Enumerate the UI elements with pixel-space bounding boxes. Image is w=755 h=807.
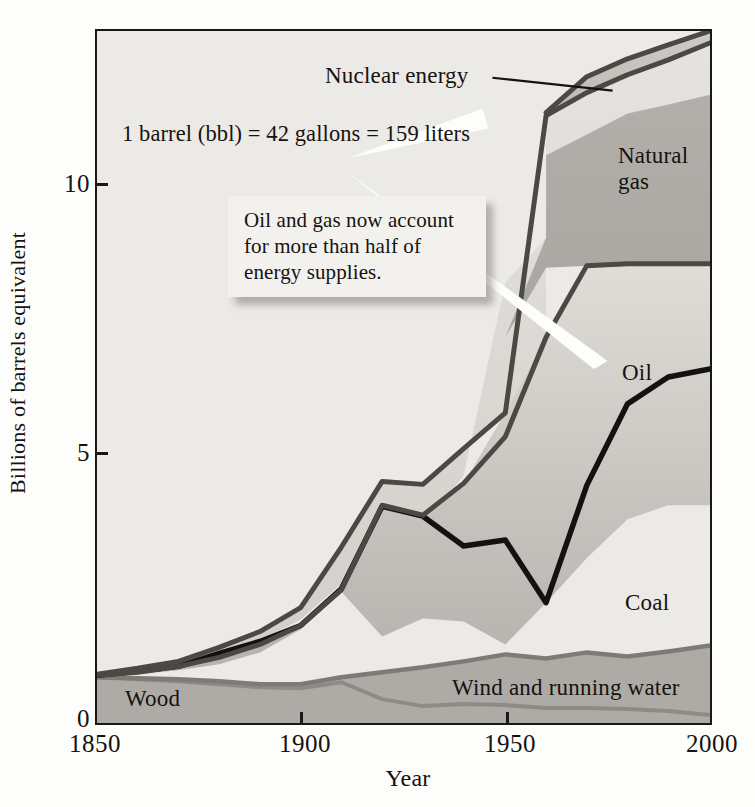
y-axis-title: Billions of barrels equivalent (5, 133, 31, 593)
callout-box: Oil and gas now account for more than ha… (228, 196, 486, 297)
y-tick-mark-5 (95, 452, 108, 455)
y-tick-5: 5 (30, 439, 90, 467)
x-tick-1850: 1850 (35, 730, 155, 758)
y-tick-mark-10 (95, 183, 108, 186)
x-axis-title: Year (318, 765, 498, 792)
conversion-note: 1 barrel (bbl) = 42 gallons = 159 liters (122, 121, 470, 147)
label-coal: Coal (625, 590, 669, 616)
label-nuclear-energy: Nuclear energy (325, 63, 469, 89)
label-wind-and-running-water: Wind and running water (452, 675, 680, 701)
area-coal (97, 264, 710, 678)
x-tick-2000: 2000 (652, 730, 755, 758)
label-wood: Wood (125, 686, 180, 712)
x-tick-mark-1900 (300, 712, 303, 725)
energy-supply-area-chart: 10 5 0 1850 1900 1950 2000 Billions of b… (0, 0, 755, 807)
x-tick-1950: 1950 (450, 730, 570, 758)
y-tick-10: 10 (30, 170, 90, 198)
y-tick-0: 0 (30, 705, 90, 733)
x-tick-1900: 1900 (245, 730, 365, 758)
label-natural-gas: Natural gas (618, 143, 688, 195)
label-oil: Oil (622, 360, 652, 386)
x-tick-mark-1950 (506, 712, 509, 725)
